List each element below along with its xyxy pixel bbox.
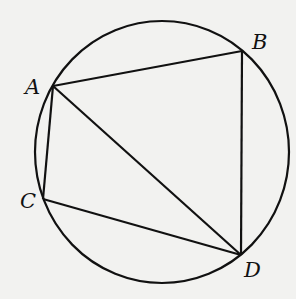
segments [43, 51, 242, 255]
diagram-canvas: A B C D [0, 0, 296, 299]
segment-bd [241, 51, 242, 255]
circle [35, 21, 289, 283]
label-b: B [251, 30, 267, 54]
geometry-diagram: A B C D [0, 0, 296, 299]
label-c: C [20, 189, 36, 213]
label-d: D [243, 258, 261, 282]
segment-ad [53, 86, 241, 255]
label-a: A [23, 75, 40, 99]
segment-ab [53, 51, 242, 86]
